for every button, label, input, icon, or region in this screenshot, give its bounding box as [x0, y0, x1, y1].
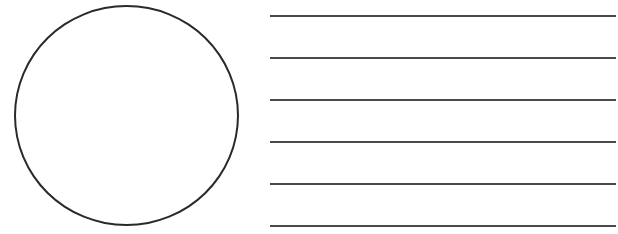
writing-line-4 [270, 141, 616, 143]
worksheet-canvas [0, 0, 618, 234]
writing-lines [270, 0, 616, 234]
writing-line-2 [270, 57, 616, 59]
writing-line-1 [270, 15, 616, 17]
drawing-circle [14, 5, 239, 226]
writing-line-5 [270, 183, 616, 185]
writing-line-3 [270, 99, 616, 101]
writing-line-6 [270, 225, 616, 227]
